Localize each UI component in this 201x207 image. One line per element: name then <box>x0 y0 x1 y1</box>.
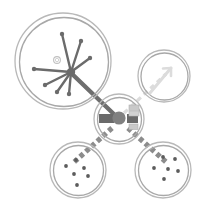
starburst-origin-dot <box>67 68 75 76</box>
starburst-ray-5-tip <box>43 83 47 87</box>
starburst-small-ring-icon <box>54 57 61 64</box>
starburst-ray-4 <box>34 69 71 72</box>
node-bottom-right[interactable] <box>135 142 191 198</box>
hub-right-small-block-2 <box>129 112 139 117</box>
scatter-dot <box>162 177 166 181</box>
node-link-diagram: Abstract node-link schematic <box>0 0 201 207</box>
scatter-dot <box>74 158 78 162</box>
starburst-small-ring-inner-icon <box>55 58 58 61</box>
hub-left-block <box>99 114 114 123</box>
starburst-ray-7-tip <box>67 92 71 96</box>
scatter-dot <box>152 166 156 170</box>
node-bottom-right-ring-inner <box>139 146 189 196</box>
node-top-right[interactable] <box>138 50 190 102</box>
scatter-dot <box>173 157 177 161</box>
node-top-left-ring-inner <box>20 18 109 107</box>
node-bottom-left-ring-inner <box>54 146 104 196</box>
arrow-shaft <box>150 68 171 93</box>
scatter-dot <box>161 155 165 159</box>
scatter-dot <box>75 183 79 187</box>
starburst-ray-1-tip <box>60 32 64 36</box>
starburst-ray-6-tip <box>55 90 59 94</box>
node-top-left-ring-outer <box>15 13 111 109</box>
scatter-dot <box>176 169 180 173</box>
node-bottom-left[interactable] <box>50 142 106 198</box>
hub-right-small-block-3 <box>129 124 138 130</box>
scatter-dot <box>166 167 170 171</box>
node-bottom-right-ring-outer <box>135 142 191 198</box>
scatter-dot <box>82 166 86 170</box>
diagram-canvas: Abstract node-link schematic <box>0 0 201 207</box>
node-top-left[interactable] <box>15 13 111 109</box>
starburst-ray-1 <box>62 34 71 72</box>
arrow-icon <box>150 68 171 93</box>
starburst-ray-3-tip <box>88 56 92 60</box>
node-hub[interactable] <box>94 94 144 144</box>
starburst-ray-2-tip <box>79 39 83 43</box>
scatter-dot <box>72 172 76 176</box>
hub-center-dot <box>112 111 125 124</box>
scatter-dot <box>86 174 90 178</box>
scatter-dot <box>64 164 68 168</box>
hub-right-small-block-1 <box>129 105 139 111</box>
starburst-ray-4-tip <box>32 67 36 71</box>
node-bottom-left-ring-outer <box>50 142 106 198</box>
link-hub-to-bottomright <box>128 128 166 162</box>
